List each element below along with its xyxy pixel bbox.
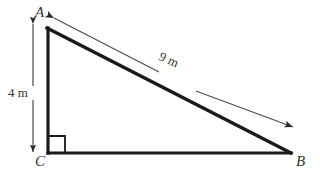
dimension-label-vertical-side: 4 m [5, 85, 31, 100]
dimension-arrow-hypotenuse-upper [54, 18, 159, 72]
triangle-figure [0, 0, 320, 178]
triangle-outline [47, 28, 291, 153]
vertex-label-b: B [296, 154, 305, 169]
geometry-diagram: A B C 4 m 9 m [0, 0, 320, 178]
dimension-arrow-hypotenuse-lower [196, 91, 293, 127]
vertex-label-c: C [35, 154, 45, 169]
right-angle-marker-icon [48, 136, 65, 153]
dimension-arrow-hypotenuse [54, 18, 293, 127]
triangle-side-ab-hypotenuse [47, 28, 291, 153]
vertex-label-a: A [35, 5, 44, 20]
